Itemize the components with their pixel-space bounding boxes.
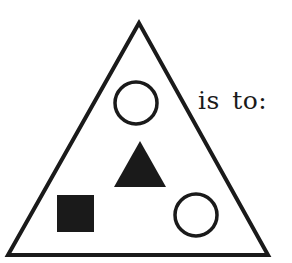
bottom-right-circle-outline xyxy=(175,194,217,236)
analogy-caption: is to: xyxy=(198,86,267,115)
top-circle-outline xyxy=(115,82,157,124)
analogy-figure: is to: xyxy=(0,0,292,263)
figure-drawing xyxy=(0,0,292,263)
center-filled-triangle xyxy=(114,141,166,187)
bottom-left-filled-square xyxy=(57,195,94,232)
outer-triangle-outline xyxy=(8,23,268,255)
